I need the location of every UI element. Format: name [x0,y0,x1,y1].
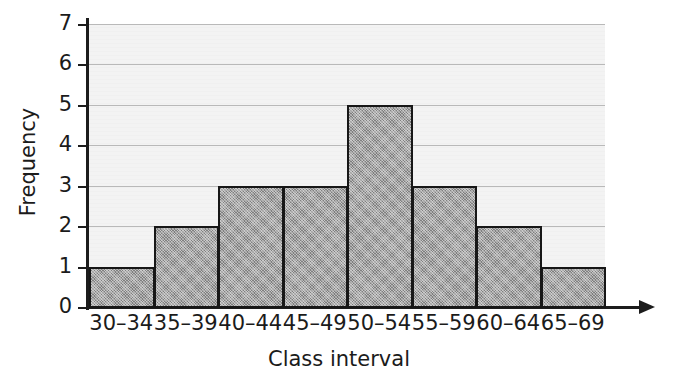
histogram-bar [412,186,478,308]
y-tick-label: 6 [50,53,72,74]
gridline [89,64,605,65]
y-axis-title: Frequency [16,72,40,252]
y-tick-label: 0 [50,296,72,317]
y-axis-tick [78,105,88,107]
y-tick-label: 1 [50,256,72,277]
y-tick-label: 3 [50,175,72,196]
y-tick-label: 2 [50,215,72,236]
y-tick-label: 4 [50,134,72,155]
histogram-bar [283,186,349,308]
histogram-bar [218,186,284,308]
x-tick-label: 60–64 [476,313,541,334]
y-axis-tick [78,226,88,228]
y-axis-tick [78,145,88,147]
y-axis-tick [78,307,88,309]
x-tick-label: 65–69 [541,313,606,334]
y-tick-label: 5 [50,94,72,115]
histogram-bar [541,267,607,308]
x-tick-label: 55–59 [412,313,477,334]
y-axis-tick [78,186,88,188]
x-axis-arrow-icon [639,300,655,314]
y-axis-tick [78,64,88,66]
histogram-bar [347,105,413,308]
histogram-bar [89,267,155,308]
x-tick-label: 30–34 [89,313,154,334]
x-tick-label: 45–49 [283,313,348,334]
y-axis-tick [78,24,88,26]
y-tick-label: 7 [50,13,72,34]
histogram-figure: 01234567 30–3435–3940–4445–4950–5455–596… [0,0,678,384]
histogram-bar [154,226,220,308]
gridline [89,24,605,25]
x-tick-label: 40–44 [218,313,283,334]
histogram-bar [476,226,542,308]
x-axis-title: Class interval [0,347,678,371]
x-tick-label: 35–39 [154,313,219,334]
y-axis-tick [78,267,88,269]
x-tick-label: 50–54 [347,313,412,334]
